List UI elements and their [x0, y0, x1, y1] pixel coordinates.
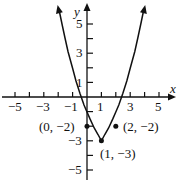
x-tick-label: −1	[64, 99, 78, 114]
x-tick-label: 1	[97, 99, 104, 114]
x-tick-label: −5	[8, 99, 22, 114]
point-label-c: (1, −3)	[100, 146, 136, 161]
y-axis-arrow-icon	[84, 3, 91, 11]
y-tick-label: 5	[76, 16, 83, 31]
curve-arrow-left-icon	[56, 5, 63, 14]
y-tick-label: −3	[68, 133, 82, 148]
x-axis-label: x	[169, 81, 176, 96]
curve-arrow-right-icon	[140, 5, 147, 14]
point-label-b: (2, −2)	[123, 119, 159, 134]
point-2-neg2	[113, 124, 118, 129]
point-0-neg2	[85, 124, 90, 129]
x-tick-label: 3	[127, 99, 134, 114]
y-tick-label: −5	[68, 162, 82, 177]
x-tick-label: 5	[155, 99, 162, 114]
y-tick-label: 3	[76, 45, 83, 60]
parabola-chart: y x −5 −3 −1 1 3 5 5 3 1 −3 −5 (0, −2) (…	[0, 0, 179, 182]
x-tick-label: −3	[36, 99, 50, 114]
point-label-a: (0, −2)	[39, 119, 75, 134]
point-1-neg3	[99, 138, 104, 143]
